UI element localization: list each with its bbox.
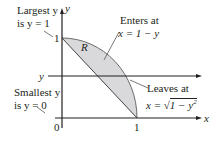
annotation-leaves-line1: Leaves at [147,82,189,94]
horizontal-line-arrow-icon [196,74,202,78]
y-axis-label: y [65,2,70,14]
annotation-largest-line2: is y = 1 [17,17,50,29]
annotation-enters-line1: Enters at [120,14,159,26]
horizontal-line-label: y [39,70,44,82]
leader-enters [104,32,119,60]
x-axis-label: x [204,112,209,124]
leaves-radicand: 1 − y2 [170,98,197,111]
annotation-leaves-line2: x = √1 − y2 [146,96,197,111]
tick-y-one: 1 [54,32,60,44]
tick-origin: 0 [54,121,60,133]
y-axis-arrow-icon [60,8,64,14]
region-label: R [81,41,88,53]
x-axis-arrow-icon [196,116,202,120]
leader-leaves [130,80,148,88]
annotation-smallest-line2: is y = 0 [14,99,47,111]
annotation-smallest-line1: Smallest y [14,86,60,98]
annotation-enters-line2: x = 1 − y [118,27,159,39]
leader-largest [44,31,53,37]
tick-x-one: 1 [134,121,140,133]
leaves-prefix: x = [146,99,164,111]
annotation-largest-line1: Largest y [17,4,58,16]
